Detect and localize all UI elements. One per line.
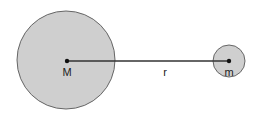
distance-label: r bbox=[163, 66, 167, 78]
small-mass-center-dot bbox=[227, 59, 231, 63]
large-mass-center-dot bbox=[65, 59, 69, 63]
gravitation-diagram: M r m bbox=[0, 0, 258, 118]
large-mass-label: M bbox=[62, 66, 71, 78]
small-mass-label: m bbox=[224, 66, 233, 78]
